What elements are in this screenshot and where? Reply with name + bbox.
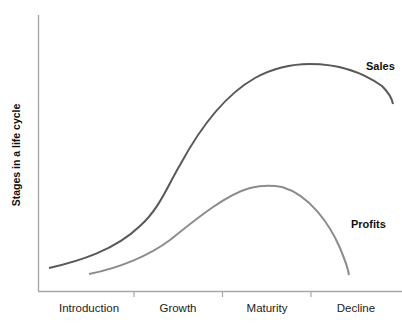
product-life-cycle-chart: Sales Profits Stages in a life cycle Int… [0,0,402,329]
x-label-introduction: Introduction [59,302,119,314]
sales-label: Sales [366,60,395,72]
y-axis-title: Stages in a life cycle [10,103,22,206]
profits-curve [89,186,349,275]
x-label-decline: Decline [337,302,375,314]
profits-label: Profits [351,218,386,230]
x-label-maturity: Maturity [247,302,288,314]
sales-curve [49,64,393,268]
x-label-growth: Growth [159,302,196,314]
